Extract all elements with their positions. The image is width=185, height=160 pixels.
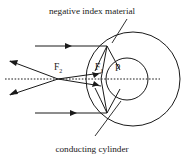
converging-arrowhead-upper	[92, 72, 99, 78]
incoming-ray-lower-arrowhead	[70, 110, 77, 116]
ray-optics-diagram: negative index material conducting cylin…	[0, 0, 185, 160]
figure-root: negative index material conducting cylin…	[0, 0, 185, 160]
focus-outer-subscript: 2	[59, 68, 62, 74]
point-p-label: P	[115, 63, 120, 73]
outgoing-ray-lower-arrowhead	[9, 89, 18, 95]
outgoing-ray-upper	[10, 61, 58, 79]
refracted-ray-lower-inner	[101, 79, 107, 113]
conducting-cylinder-label: conducting cylinder	[55, 144, 128, 154]
incoming-ray-upper-arrowhead	[65, 43, 72, 49]
focus-inner-label: F1	[95, 62, 103, 74]
leader-line-negative-index-material	[112, 19, 127, 43]
converging-arrowhead-lower	[92, 81, 99, 87]
negative-index-material-label: negative index material	[49, 6, 136, 16]
outgoing-ray-upper-arrowhead	[9, 60, 18, 66]
refracted-ray-lower-shell	[107, 89, 120, 113]
focus-outer-label: F2	[54, 62, 62, 74]
leader-line-conducting-cylinder	[95, 101, 121, 136]
focus-inner-subscript: 1	[100, 68, 103, 74]
